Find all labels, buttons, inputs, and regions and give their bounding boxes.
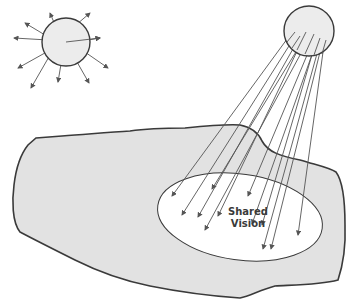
shared-vision-line2: Vision xyxy=(218,218,278,230)
focused-source-circle xyxy=(284,6,334,56)
shared-vision-label: Shared Vision xyxy=(218,206,278,230)
diagram-canvas xyxy=(0,0,351,306)
shared-vision-line1: Shared xyxy=(218,206,278,218)
